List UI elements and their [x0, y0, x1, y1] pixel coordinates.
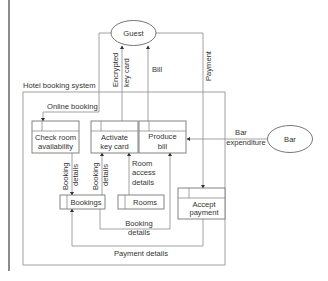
entity-guest: Guest	[111, 21, 156, 46]
flow-room-access-details: Room access details	[127, 153, 156, 196]
flow-label-booking-mid-2: details	[101, 164, 110, 186]
process-produce-label-1: Produce	[148, 132, 176, 141]
flow-label-expenditure: expenditure	[226, 138, 266, 147]
system-boundary-label: Hotel booking system	[23, 81, 96, 90]
process-check-room-availability: Check room availability	[32, 121, 79, 153]
flow-label-payment-details: Payment details	[114, 249, 168, 258]
flow-label-booking-bottom-2: details	[128, 228, 150, 237]
flow-label-booking-bottom-1: Booking	[125, 219, 152, 228]
process-accept-payment: Accept payment	[178, 188, 225, 219]
flow-label-booking-mid-1: Booking	[91, 163, 100, 190]
flow-label-bar: Bar	[235, 128, 247, 137]
entity-bar-label: Bar	[284, 135, 296, 144]
datastore-rooms: Rooms	[118, 195, 164, 209]
flow-label-key-card: key card	[122, 58, 131, 87]
flow-label-payment: Payment	[204, 50, 213, 81]
process-check-room-label-2: availability	[38, 142, 73, 151]
flow-label-booking-left-1: Booking	[61, 163, 70, 190]
process-accept-label-2: payment	[189, 208, 219, 217]
flow-label-encrypted: Encrypted	[111, 53, 120, 87]
flow-online-booking: Online booking	[41, 33, 111, 122]
flow-bar-expenditure: Bar expenditure	[187, 128, 269, 147]
flow-label-online-booking: Online booking	[47, 102, 98, 111]
flow-label-room: Room	[132, 159, 152, 168]
flow-booking-details-mid: Booking details	[91, 153, 110, 196]
entity-guest-label: Guest	[123, 29, 144, 38]
datastore-bookings: Bookings	[60, 195, 105, 209]
flow-encrypted-key-card: Encrypted key card	[111, 46, 131, 122]
flow-label-bill: Bill	[152, 65, 162, 74]
process-produce-label-2: bill	[158, 142, 168, 151]
flow-label-booking-left-2: details	[71, 164, 80, 186]
flow-label-access: access	[132, 168, 156, 177]
flow-label-details: details	[132, 178, 154, 187]
process-activate-label-1: Activate	[101, 133, 128, 142]
process-activate-key-card: Activate key card	[91, 121, 138, 153]
entity-bar: Bar	[268, 126, 313, 153]
process-produce-bill: Produce bill	[139, 121, 186, 153]
process-check-room-label-1: Check room	[35, 133, 76, 142]
datastore-rooms-label: Rooms	[133, 198, 157, 207]
process-activate-label-2: key card	[100, 142, 129, 151]
data-flow-diagram: Hotel booking system Online booking Encr…	[0, 0, 328, 281]
flow-bill: Bill	[146, 46, 162, 122]
datastore-bookings-label: Bookings	[70, 198, 101, 207]
flow-payment: Payment	[156, 33, 213, 189]
flow-booking-details-left: Booking details	[61, 153, 80, 196]
